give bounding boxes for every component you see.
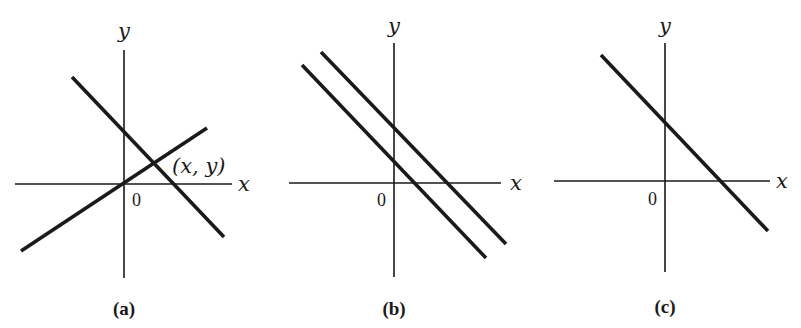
panel-a: y x 0 (x, y) (a) — [15, 19, 250, 320]
x-axis-label: x — [238, 172, 250, 196]
x-axis-label: x — [510, 171, 522, 195]
figure-three-systems-of-lines: y x 0 (x, y) (a) y x 0 (b) y x 0 (c) — [0, 0, 801, 328]
y-axis-label: y — [117, 19, 131, 43]
origin-label: 0 — [648, 189, 657, 209]
panel-b: y x 0 (b) — [289, 14, 522, 320]
upper-parallel-line — [321, 52, 506, 244]
x-axis-label: x — [776, 169, 788, 193]
origin-label: 0 — [132, 190, 141, 210]
panel-c: y x 0 (c) — [554, 14, 788, 318]
panel-caption: (b) — [382, 298, 405, 320]
intersection-point-label: (x, y) — [172, 154, 225, 178]
panel-caption: (a) — [113, 298, 135, 320]
y-axis-label: y — [658, 14, 672, 38]
coincident-line — [601, 55, 768, 231]
origin-label: 0 — [377, 190, 386, 210]
panel-caption: (c) — [654, 296, 675, 318]
y-axis-label: y — [387, 14, 401, 38]
